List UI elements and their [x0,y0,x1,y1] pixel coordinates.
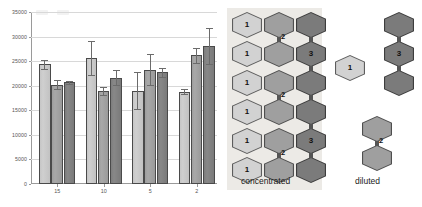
hexagon-connector [397,66,401,71]
error-cap-upper [147,54,154,55]
y-axis-line [31,12,32,184]
bar [98,91,110,184]
y-tick-mark [29,159,31,160]
error-cap-lower [147,85,154,86]
connector-label: 2 [281,33,285,41]
bar [179,92,191,184]
hexagon-label: 1 [245,50,249,58]
bar [39,64,51,184]
connector-label: 2 [379,137,383,145]
bar [110,78,122,184]
error-cap-lower [41,69,48,70]
hexagon: 1 [335,55,365,81]
hexagon-label: 1 [245,108,249,116]
plot-area: 0500010000150002000025000300003500015105… [31,12,217,184]
x-tick-mark [197,184,198,187]
bar-group [39,12,75,184]
error-bar [162,68,163,77]
hexagon-connector [397,37,401,42]
hexagon-label: 1 [245,166,249,174]
hexagon-fill [363,146,391,170]
y-tick-mark [29,135,31,136]
hexagon-label: 3 [309,50,313,58]
error-bar [91,41,92,75]
error-bar [103,87,104,95]
hexagon: 3 [384,41,414,67]
x-tick-label: 5 [149,188,152,194]
error-cap-lower [113,85,120,86]
hexagon-fill [265,42,293,66]
error-bar [150,54,151,85]
error-bar [209,28,210,64]
bar-group [132,12,168,184]
x-tick-label: 15 [54,188,60,194]
error-bar [44,60,45,69]
error-cap-upper [88,41,95,42]
x-tick-mark [104,184,105,187]
bar [157,72,169,184]
error-cap-lower [66,84,73,85]
bar-group [179,12,215,184]
bar [203,46,215,184]
y-tick-label: 30000 [12,34,27,40]
figure-root: 0500010000150002000025000300003500015105… [0,0,422,207]
diluted-caption: diluted [355,176,380,186]
hexagon-label: 1 [348,64,352,72]
bar [51,85,63,184]
error-cap-upper [100,87,107,88]
hexagon-fill [297,13,325,37]
hexagon [362,116,392,142]
x-tick-mark [150,184,151,187]
error-cap-upper [54,80,61,81]
error-cap-upper [134,72,141,73]
hexagon [384,12,414,38]
concentrated-caption: concentrated [241,176,290,186]
error-cap-lower [100,95,107,96]
error-cap-lower [134,109,141,110]
hexagon-label: 3 [309,137,313,145]
error-cap-lower [54,89,61,90]
hexagon-fill [385,71,413,95]
hexagon-fill [265,100,293,124]
error-cap-upper [159,68,166,69]
hexagon-label: 1 [245,79,249,87]
bar-group [86,12,122,184]
bar [191,55,203,184]
error-cap-lower [206,64,213,65]
hexagon-fill [297,71,325,95]
hexagon-fill [265,129,293,153]
connector-label: 2 [281,149,285,157]
hexagon-connector [309,124,313,129]
bar [86,58,98,184]
bar-chart-panel: 0500010000150002000025000300003500015105… [0,0,225,207]
hexagon-fill [265,13,293,37]
hexagon [384,70,414,96]
error-bar [57,80,58,89]
error-cap-lower [88,75,95,76]
error-cap-upper [41,60,48,61]
hexagon-connector [309,153,313,158]
error-cap-upper [181,89,188,90]
hexagon-fill [297,158,325,182]
y-tick-mark [29,110,31,111]
hexagon-diagram-panel: 11111122233132 concentrated diluted [225,0,422,207]
hexagon [362,145,392,171]
error-cap-upper [66,81,73,82]
error-cap-lower [181,94,188,95]
error-bar [137,72,138,108]
y-tick-label: 25000 [12,58,27,64]
x-tick-mark [57,184,58,187]
hexagon-connector [309,95,313,100]
y-tick-label: 10000 [12,132,27,138]
connector-label: 2 [281,91,285,99]
chart-top-artifact [36,1,86,7]
y-tick-label: 35000 [12,9,27,15]
hexagon-fill [385,13,413,37]
hexagon-fill [265,71,293,95]
hexagon-label: 1 [245,137,249,145]
x-tick-label: 2 [195,188,198,194]
error-cap-lower [193,63,200,64]
error-cap-upper [113,70,120,71]
hexagon-connector [309,37,313,42]
error-cap-upper [206,28,213,29]
